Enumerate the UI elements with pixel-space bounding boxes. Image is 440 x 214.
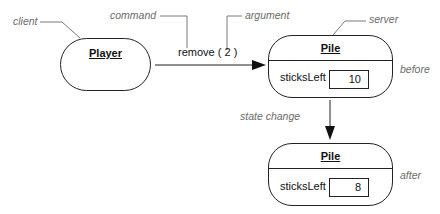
pile-after-attribute-value: 8: [329, 178, 369, 197]
before-annotation: before: [400, 63, 430, 75]
pile-before-attribute-value: 10: [329, 70, 369, 89]
pile-object-after: Pile sticksLeft 8: [268, 143, 393, 206]
pile-before-divider: [269, 60, 392, 61]
pile-after-name: Pile: [269, 150, 392, 162]
argument-annotation: argument: [245, 9, 289, 21]
pile-after-attribute-label: sticksLeft: [280, 180, 326, 192]
server-annotation: server: [369, 13, 398, 25]
command-annotation: command: [110, 9, 156, 21]
server-leader-line: [333, 21, 366, 35]
pile-after-divider: [269, 168, 392, 169]
client-annotation: client: [13, 15, 38, 27]
state-change-arrowhead-icon: [325, 126, 335, 140]
after-annotation: after: [400, 169, 421, 181]
state-change-annotation: state change: [240, 110, 300, 122]
pile-object-before: Pile sticksLeft 10: [268, 35, 393, 98]
client-leader-line: [40, 22, 80, 38]
command-leader-line: [160, 16, 187, 48]
message-arrowhead-icon: [252, 60, 266, 70]
argument-leader-line: [227, 16, 242, 50]
player-object-name: Player: [61, 47, 150, 59]
pile-before-attribute-label: sticksLeft: [280, 71, 326, 83]
message-label: remove ( 2 ): [178, 46, 237, 58]
pile-before-name: Pile: [269, 42, 392, 54]
player-object: Player: [60, 38, 151, 91]
